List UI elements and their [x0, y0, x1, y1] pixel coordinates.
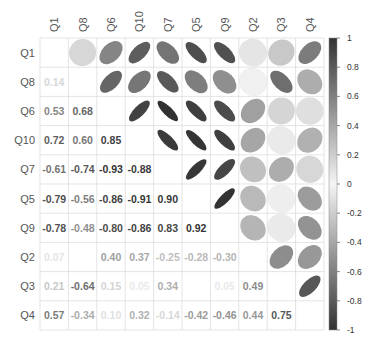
- correlation-value: 0.75: [271, 309, 292, 321]
- correlation-ellipse: [208, 65, 241, 98]
- column-label: Q1: [48, 17, 60, 32]
- correlation-ellipse: [155, 98, 181, 124]
- correlation-value: -0.64: [71, 280, 95, 292]
- correlation-ellipse: [124, 66, 155, 97]
- correlation-ellipse: [235, 151, 272, 188]
- correlation-ellipse: [96, 67, 126, 97]
- correlation-ellipse: [293, 211, 326, 244]
- row-label: Q4: [20, 309, 35, 321]
- correlation-value: 0.60: [72, 134, 93, 146]
- correlation-ellipse: [293, 240, 326, 273]
- column-label: Q9: [219, 17, 231, 32]
- correlation-value: 0.07: [44, 251, 65, 263]
- correlation-value: 0.44: [243, 309, 264, 321]
- colorbar-tick-label: 0: [347, 179, 352, 189]
- row-label: Q9: [20, 222, 35, 234]
- colorbar-tick-label: -0.2: [347, 208, 362, 218]
- correlation-value: -0.14: [156, 309, 180, 321]
- colorbar-tick-label: -0.4: [347, 237, 362, 247]
- correlation-ellipse: [263, 34, 300, 71]
- correlation-ellipse: [182, 39, 210, 67]
- correlation-value: -0.42: [184, 309, 208, 321]
- colorbar-tick-label: 0.8: [347, 62, 359, 72]
- correlation-value: 0.90: [158, 193, 179, 205]
- correlation-ellipse: [126, 98, 153, 125]
- column-label: Q8: [77, 17, 89, 32]
- correlation-ellipse: [63, 33, 101, 71]
- correlation-value: 0.05: [129, 280, 150, 292]
- correlation-value: 0.68: [72, 105, 93, 117]
- colorbar-gradient: [329, 38, 337, 330]
- correlation-value: 0.34: [158, 280, 179, 292]
- column-label: Q4: [304, 17, 316, 32]
- column-label: Q3: [275, 17, 287, 32]
- correlation-ellipse: [211, 97, 239, 125]
- correlation-ellipse: [183, 127, 209, 153]
- correlation-ellipse: [212, 186, 238, 212]
- correlation-value: -0.46: [213, 309, 237, 321]
- row-label: Q2: [20, 251, 35, 263]
- correlation-ellipse: [265, 241, 298, 274]
- correlation-value: -0.80: [99, 222, 123, 234]
- correlation-value: -0.86: [99, 193, 123, 205]
- colorbar-tick-label: -0.8: [347, 296, 362, 306]
- correlation-ellipse: [292, 122, 327, 157]
- correlation-ellipse: [296, 272, 324, 300]
- row-label: Q8: [20, 76, 35, 88]
- correlation-value: 0.37: [129, 251, 150, 263]
- correlation-value: -0.91: [127, 193, 151, 205]
- correlation-ellipse: [211, 127, 238, 154]
- colorbar-tick-label: -0.6: [347, 267, 362, 277]
- correlation-ellipse: [262, 92, 300, 130]
- correlation-ellipse: [266, 67, 296, 97]
- colorbar-tick-label: 1: [347, 33, 352, 43]
- correlation-ellipse: [264, 152, 299, 187]
- correlation-value: -0.56: [71, 193, 95, 205]
- correlation-value: -0.79: [42, 193, 66, 205]
- correlation-ellipse: [233, 33, 272, 72]
- row-label: Q1: [20, 47, 35, 59]
- correlation-value: -0.74: [71, 163, 95, 175]
- correlation-plot: Q1Q8Q6Q10Q7Q5Q9Q2Q3Q4 Q1Q8Q6Q10Q7Q5Q9Q2Q…: [0, 0, 375, 344]
- correlation-ellipse: [154, 68, 183, 97]
- correlation-ellipse: [291, 150, 329, 188]
- correlation-ellipse: [183, 98, 210, 125]
- correlation-ellipse: [236, 94, 270, 128]
- correlation-value: 0.83: [158, 222, 179, 234]
- colorbar-tick-label: 0.6: [347, 91, 359, 101]
- correlation-ellipse: [293, 182, 327, 216]
- colorbar-ticks: 10.80.60.40.20-0.2-0.4-0.6-0.8-1: [337, 33, 362, 335]
- colorbar-tick-label: -1: [347, 325, 355, 335]
- correlation-value: -0.28: [184, 251, 208, 263]
- correlation-value: 0.14: [44, 76, 65, 88]
- correlation-ellipse: [152, 37, 183, 68]
- column-label: Q2: [247, 17, 259, 32]
- correlation-ellipse: [95, 37, 127, 69]
- correlation-value: -0.34: [71, 309, 95, 321]
- correlation-value: -0.86: [127, 222, 151, 234]
- row-label: Q7: [20, 163, 35, 175]
- correlation-value: 0.21: [44, 280, 65, 292]
- correlation-value: 0.92: [186, 222, 207, 234]
- correlation-ellipse: [236, 123, 271, 158]
- correlation-value: -0.93: [99, 163, 123, 175]
- column-label: Q6: [105, 17, 117, 32]
- correlation-value: -0.88: [127, 163, 151, 175]
- correlation-value: -0.78: [42, 222, 66, 234]
- correlation-value: 0.32: [129, 309, 150, 321]
- correlation-cells: 0.140.530.680.720.600.85-0.61-0.74-0.93-…: [42, 33, 329, 322]
- correlation-value: -0.61: [42, 163, 66, 175]
- colorbar-tick-label: 0.2: [347, 150, 359, 160]
- correlation-value: 0.05: [214, 280, 235, 292]
- row-label: Q5: [20, 193, 35, 205]
- correlation-value: 0.40: [101, 251, 122, 263]
- column-labels: Q1Q8Q6Q10Q7Q5Q9Q2Q3Q4: [48, 11, 316, 32]
- correlation-value: -0.48: [71, 222, 95, 234]
- colorbar-tick-label: 0.4: [347, 121, 359, 131]
- correlation-ellipse: [294, 37, 325, 68]
- correlation-ellipse: [183, 156, 209, 182]
- correlation-ellipse: [211, 39, 239, 67]
- correlation-ellipse: [155, 127, 181, 153]
- column-label: Q5: [190, 17, 202, 32]
- column-label: Q10: [133, 11, 145, 32]
